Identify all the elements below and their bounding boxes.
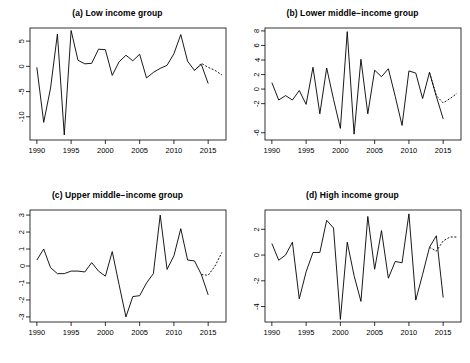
x-tick-label: 2015 (200, 146, 217, 155)
x-tick-label: 2005 (366, 328, 383, 337)
x-tick-label: 2000 (332, 328, 349, 337)
panel-d: (d) High income group 199019952000200520… (235, 182, 470, 363)
x-tick-label: 1990 (264, 328, 281, 337)
y-tick-label: -6 (253, 129, 262, 136)
series-forecast (429, 237, 456, 251)
y-tick-label: 8 (253, 29, 262, 33)
y-tick-label: 2 (17, 230, 26, 234)
series-observed (37, 31, 208, 135)
x-tick-label: 2005 (131, 328, 148, 337)
x-tick-label: 2000 (97, 146, 114, 155)
x-tick-label: 2015 (435, 146, 452, 155)
series-observed (272, 214, 443, 320)
figure-panel-grid: (a) Low income group 1990199520002005201… (0, 0, 470, 363)
panel-b: (b) Lower middle−income group 1990199520… (235, 0, 470, 181)
y-tick-label: 3 (18, 213, 27, 217)
x-tick-label: 1995 (63, 328, 80, 337)
x-tick-label: 1995 (298, 328, 315, 337)
x-tick-label: 2000 (332, 146, 349, 155)
y-tick-label: 0 (253, 253, 262, 257)
y-tick-label: 6 (253, 43, 262, 47)
y-tick-label: -1 (18, 280, 27, 287)
series-observed (37, 215, 208, 317)
series-forecast (201, 252, 222, 275)
x-tick-label: 2005 (366, 146, 383, 155)
y-tick-label: 0 (18, 264, 27, 268)
y-tick-label: -5 (18, 88, 27, 95)
plot-box (265, 210, 461, 322)
x-tick-label: 1990 (264, 146, 281, 155)
x-tick-label: 2015 (435, 328, 452, 337)
x-tick-label: 1995 (298, 146, 315, 155)
y-tick-label: -2 (253, 277, 262, 284)
y-tick-label: 0 (253, 87, 262, 91)
y-tick-label: -2 (18, 297, 27, 304)
panel-b-plot: 199019952000200520102015-6-202468 (235, 0, 470, 181)
y-tick-label: -2 (253, 100, 262, 107)
y-tick-label: -3 (18, 314, 27, 321)
series-forecast (429, 72, 456, 103)
x-tick-label: 2010 (401, 146, 418, 155)
y-tick-label: 2 (253, 227, 262, 231)
x-tick-label: 2000 (97, 328, 114, 337)
panel-c-plot: 199019952000200520102015-3-2-10123 (0, 182, 235, 363)
y-tick-label: -10 (18, 111, 27, 122)
series-forecast (194, 63, 221, 75)
panel-c: (c) Upper middle−income group 1990199520… (0, 182, 235, 363)
y-tick-label: 1 (18, 247, 27, 251)
panel-a-plot: 199019952000200520102015-10-505 (0, 0, 235, 181)
x-tick-label: 2010 (166, 328, 183, 337)
x-tick-label: 2010 (166, 146, 183, 155)
plot-box (30, 28, 226, 140)
x-tick-label: 1990 (29, 328, 46, 337)
panel-d-plot: 199019952000200520102015-4-202 (235, 182, 470, 363)
series-observed (272, 32, 443, 135)
y-tick-label: 5 (18, 39, 27, 43)
x-tick-label: 2015 (200, 328, 217, 337)
x-tick-label: 2010 (401, 328, 418, 337)
y-tick-label: 2 (253, 72, 262, 76)
plot-box (265, 28, 461, 140)
x-tick-label: 1990 (29, 146, 46, 155)
x-tick-label: 2005 (131, 146, 148, 155)
y-tick-label: 0 (18, 64, 27, 68)
panel-a: (a) Low income group 1990199520002005201… (0, 0, 235, 181)
y-tick-label: -4 (253, 303, 262, 310)
x-tick-label: 1995 (63, 146, 80, 155)
y-tick-label: 4 (253, 58, 262, 62)
